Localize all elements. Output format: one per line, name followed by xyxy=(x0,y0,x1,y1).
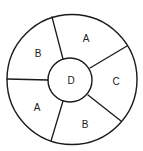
divider-bottom-left xyxy=(51,101,63,141)
segment-top-label: A xyxy=(83,33,90,44)
divider-left xyxy=(7,79,48,80)
divider-bottom-right xyxy=(88,95,121,121)
center-label-d: D xyxy=(67,75,74,86)
divider-top-right xyxy=(90,46,127,68)
segment-right-label: C xyxy=(112,76,119,87)
segmented-ring-diagram: BACBA D xyxy=(0,0,143,151)
segment-upper-left-label: B xyxy=(35,48,42,59)
segment-labels: BACBA xyxy=(34,33,120,130)
segment-bottom-label: B xyxy=(82,119,89,130)
divider-top-left xyxy=(52,17,63,59)
segment-lower-left-label: A xyxy=(34,102,41,113)
